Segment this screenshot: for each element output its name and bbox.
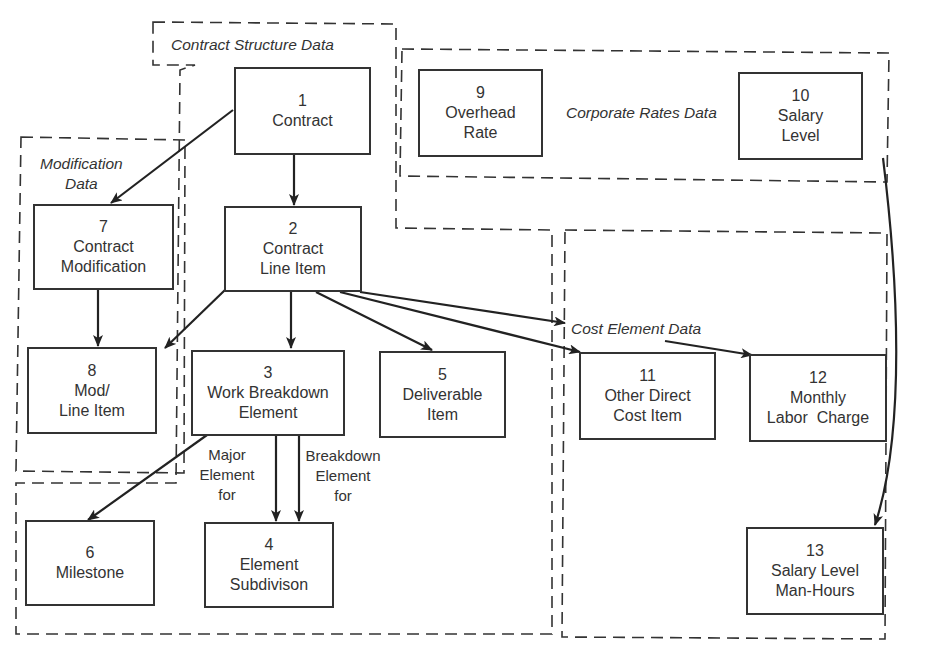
entity-number: 12 [809, 368, 827, 388]
entity-number: 1 [298, 91, 307, 111]
entity-number: 5 [438, 365, 447, 385]
entity-label: Other Direct [604, 386, 690, 406]
entity-number: 2 [289, 219, 298, 239]
relationship-label-breakdown-element-for: Breakdown Element for [302, 446, 384, 506]
entity-label: Cost Item [613, 406, 681, 426]
entity-label: Man-Hours [775, 581, 854, 601]
group-label-corporate-rates: Corporate Rates Data [566, 104, 717, 122]
entity-7-contract-modification: 7 Contract Modification [33, 204, 174, 290]
group-label-modification: Modification Data [40, 154, 123, 194]
entity-label: Element [240, 555, 299, 575]
entity-number: 10 [792, 86, 810, 106]
entity-number: 3 [264, 363, 273, 383]
rel-label-line: for [196, 485, 258, 505]
group-label-cost-element: Cost Element Data [571, 320, 701, 338]
entity-number: 6 [86, 543, 95, 563]
entity-3-work-breakdown-element: 3 Work Breakdown Element [191, 350, 345, 436]
entity-label: Item [427, 405, 458, 425]
rel-label-line: Element [196, 465, 258, 485]
entity-label: Contract [73, 237, 133, 257]
entity-4-element-subdivision: 4 Element Subdivison [204, 522, 334, 608]
entity-label: Labor Charge [767, 408, 869, 428]
entity-label: Overhead [445, 103, 515, 123]
rel-label-line: Element [302, 466, 384, 486]
entity-label: Salary [778, 106, 823, 126]
arrow-1-to-7 [111, 110, 233, 203]
group-label-modification-line-2: Data [40, 174, 123, 194]
entity-12-monthly-labor-charge: 12 Monthly Labor Charge [749, 354, 887, 442]
entity-8-mod-line-item: 8 Mod/ Line Item [27, 347, 157, 434]
entity-number: 4 [265, 535, 274, 555]
entity-label: Monthly [790, 388, 846, 408]
relationship-label-major-element-for: Major Element for [196, 445, 258, 505]
entity-label: Deliverable [402, 385, 482, 405]
entity-6-milestone: 6 Milestone [25, 520, 155, 606]
entity-label: Contract [272, 111, 332, 131]
entity-label: Line Item [59, 401, 125, 421]
entity-label: Rate [464, 123, 498, 143]
entity-10-salary-level: 10 Salary Level [738, 72, 863, 160]
entity-number: 7 [99, 217, 108, 237]
entity-label: Mod/ [74, 381, 110, 401]
entity-label: Salary Level [771, 561, 859, 581]
entity-number: 13 [806, 541, 824, 561]
rel-label-line: Breakdown [302, 446, 384, 466]
entity-number: 9 [476, 83, 485, 103]
entity-5-deliverable-item: 5 Deliverable Item [379, 351, 506, 438]
entity-label: Line Item [260, 259, 326, 279]
entity-number: 8 [88, 361, 97, 381]
group-label-contract-structure: Contract Structure Data [171, 36, 334, 54]
entity-1-contract: 1 Contract [234, 67, 371, 155]
group-label-modification-line-1: Modification [40, 154, 123, 174]
entity-2-contract-line-item: 2 Contract Line Item [224, 206, 362, 292]
entity-label: Modification [61, 257, 146, 277]
entity-label: Work Breakdown [207, 383, 329, 403]
entity-11-other-direct-cost-item: 11 Other Direct Cost Item [579, 352, 716, 440]
entity-number: 11 [639, 366, 656, 386]
entity-label: Subdivison [230, 575, 308, 595]
entity-13-salary-level-man-hours: 13 Salary Level Man-Hours [746, 527, 884, 615]
arrow-2-to-8 [165, 290, 225, 348]
arrow-2-to-12 [360, 292, 565, 323]
entity-label: Contract [263, 239, 323, 259]
entity-9-overhead-rate: 9 Overhead Rate [418, 69, 543, 157]
entity-label: Element [239, 403, 298, 423]
arrow-3-to-6 [88, 435, 207, 520]
rel-label-line: Major [196, 445, 258, 465]
entity-label: Milestone [56, 563, 124, 583]
entity-label: Level [781, 126, 819, 146]
rel-label-line: for [302, 486, 384, 506]
